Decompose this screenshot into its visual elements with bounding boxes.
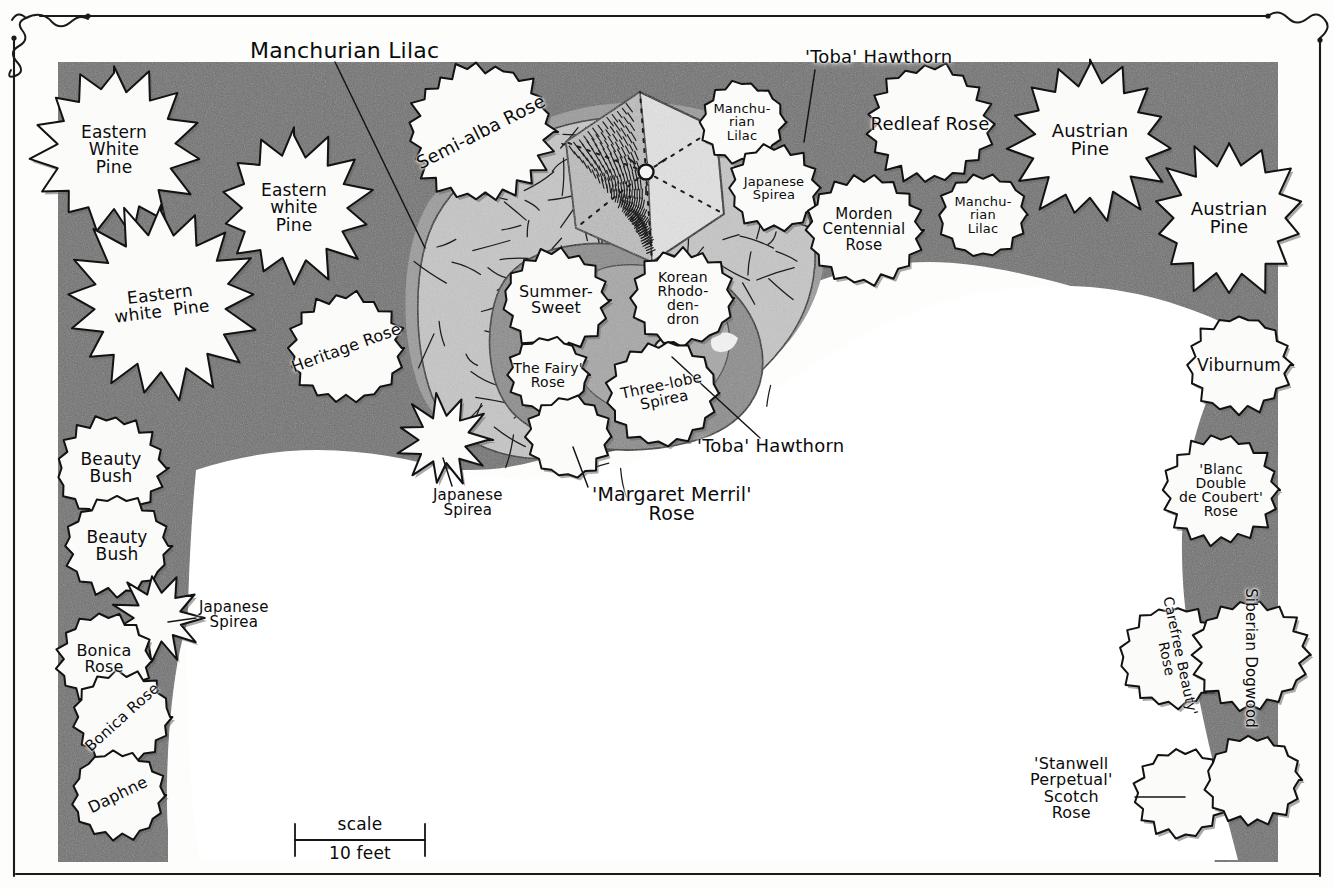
- plan-drawing: [0, 0, 1334, 889]
- terrace-centre-point: [639, 165, 654, 180]
- landscape-plan: Eastern White PineEastern white PineEast…: [0, 0, 1334, 889]
- brick-joint: [615, 184, 616, 191]
- corner-flourish-left: [9, 14, 26, 76]
- corner-flourish-right: [1268, 12, 1328, 38]
- brick-joint: [612, 184, 613, 191]
